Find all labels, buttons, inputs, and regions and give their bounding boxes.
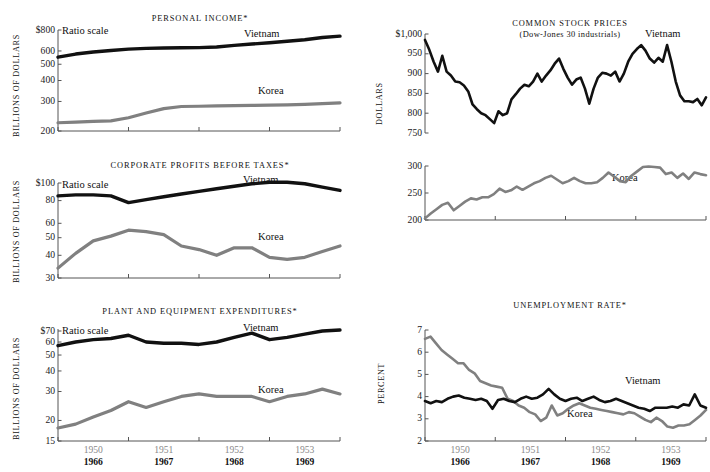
figure-page: PERSONAL INCOME* BILLIONS OF DOLLARS Rat… bbox=[0, 0, 710, 472]
stock-prices-lower-y-tick-label: 300 bbox=[0, 161, 422, 171]
plant-equipment-x-tick-label-top: 1953 bbox=[285, 444, 325, 455]
unemployment-x-tick-label-top: 1951 bbox=[510, 444, 550, 455]
unemployment-y-tick-label: 4 bbox=[0, 391, 422, 401]
plant-equipment-x-tick-label-bottom: 1969 bbox=[285, 456, 325, 467]
unemployment-x-tick-label-bottom: 1967 bbox=[510, 456, 550, 467]
corporate-profits-y-tick-label: 30 bbox=[0, 273, 55, 283]
stock-prices-upper-y-tick-label: 900 bbox=[0, 68, 422, 78]
unemployment-y-tick-label: 7 bbox=[0, 325, 422, 335]
unemployment-x-tick-label-bottom: 1969 bbox=[651, 456, 691, 467]
unemployment-x-tick-label-bottom: 1968 bbox=[581, 456, 621, 467]
unemployment-y-tick-label: 5 bbox=[0, 369, 422, 379]
corporate-profits-y-tick-label: 50 bbox=[0, 232, 55, 242]
stock-prices-upper-y-tick-label: 950 bbox=[0, 48, 422, 58]
stock-prices-upper-y-tick-label: 800 bbox=[0, 108, 422, 118]
plant-equipment-x-tick-label-bottom: 1967 bbox=[144, 456, 184, 467]
unemployment-series-korea bbox=[425, 337, 706, 428]
unemployment-x-tick-label-bottom: 1966 bbox=[440, 456, 480, 467]
stock-prices-upper-y-tick-label: $1,000 bbox=[0, 29, 422, 39]
plant-equipment-x-tick-label-top: 1951 bbox=[144, 444, 184, 455]
plot-group-unemployment bbox=[425, 330, 706, 441]
stock-prices-lower-y-tick-label: 200 bbox=[0, 215, 422, 225]
unemployment-x-tick-label-top: 1953 bbox=[651, 444, 691, 455]
unemployment-y-tick-label: 6 bbox=[0, 347, 422, 357]
plant-equipment-y-tick-label: 60 bbox=[0, 337, 55, 347]
corporate-profits-y-tick-label: $100 bbox=[0, 178, 55, 188]
stock-prices-upper-y-tick-label: 750 bbox=[0, 128, 422, 138]
plant-equipment-x-tick-label-bottom: 1966 bbox=[73, 456, 113, 467]
unemployment-y-tick-label: 2 bbox=[0, 436, 422, 446]
unemployment-y-tick-label: 3 bbox=[0, 413, 422, 423]
stock-prices-lower-y-tick-label: 250 bbox=[0, 188, 422, 198]
plant-equipment-x-tick-label-top: 1952 bbox=[214, 444, 254, 455]
plant-equipment-x-tick-label-bottom: 1968 bbox=[214, 456, 254, 467]
unemployment-series-vietnam bbox=[425, 389, 706, 411]
corporate-profits-y-tick-label: 40 bbox=[0, 250, 55, 260]
unemployment-x-tick-label-top: 1950 bbox=[440, 444, 480, 455]
plant-equipment-x-tick-label-top: 1950 bbox=[73, 444, 113, 455]
unemployment-x-tick-label-top: 1952 bbox=[581, 444, 621, 455]
stock-prices-upper-y-tick-label: 850 bbox=[0, 88, 422, 98]
